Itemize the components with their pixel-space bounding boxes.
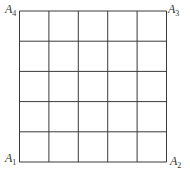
corner-index: 3 (175, 9, 179, 18)
corner-index: 4 (12, 9, 16, 18)
grid-diagram: A4 A3 A1 A2 (0, 0, 190, 176)
grid-lines (0, 0, 190, 176)
corner-label-a3: A3 (168, 3, 179, 15)
corner-label-a4: A4 (5, 3, 16, 15)
corner-label-a2: A2 (170, 155, 181, 167)
corner-label-a1: A1 (5, 152, 16, 164)
corner-index: 1 (12, 158, 16, 167)
corner-index: 2 (177, 161, 181, 170)
